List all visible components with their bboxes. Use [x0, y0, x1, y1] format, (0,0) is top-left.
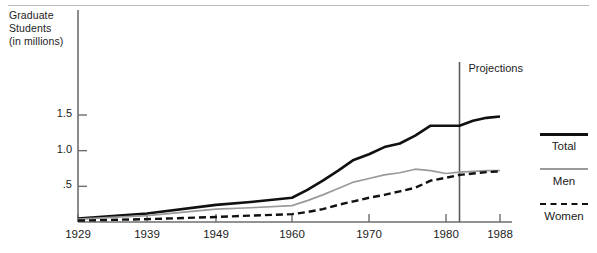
chart-plot-area — [0, 0, 597, 253]
y-tick-label: .5 — [38, 178, 72, 190]
legend-label-men: Men — [540, 174, 588, 187]
legend-swatch-total-icon — [540, 130, 596, 139]
x-tick-label: 1970 — [344, 228, 394, 240]
x-tick-label: 1939 — [122, 228, 172, 240]
legend-swatch-women-icon — [540, 200, 596, 209]
x-tick-label: 1949 — [191, 228, 241, 240]
chart-figure: Graduate Students (in millions) .51.01.5… — [0, 0, 597, 253]
x-tick-label: 1929 — [53, 228, 103, 240]
chart-legend: Total Men Women — [540, 130, 596, 235]
y-tick-label: 1.5 — [38, 107, 72, 119]
series-line-total — [78, 116, 500, 218]
legend-entry-men: Men — [540, 165, 596, 187]
legend-entry-total: Total — [540, 130, 596, 152]
x-tick-label: 1980 — [421, 228, 471, 240]
series-line-men — [78, 169, 500, 219]
y-axis-title: Graduate Students (in millions) — [9, 9, 63, 48]
projections-label: Projections — [469, 62, 523, 74]
legend-swatch-men-icon — [540, 165, 596, 174]
y-tick-marks — [78, 115, 87, 186]
legend-label-women: Women — [540, 209, 588, 222]
data-series-group — [78, 116, 500, 220]
legend-entry-women: Women — [540, 200, 596, 222]
y-tick-label: 1.0 — [38, 143, 72, 155]
x-tick-label: 1988 — [475, 228, 525, 240]
top-divider-rule — [8, 5, 589, 6]
x-tick-label: 1960 — [267, 228, 317, 240]
legend-label-total: Total — [540, 139, 588, 152]
